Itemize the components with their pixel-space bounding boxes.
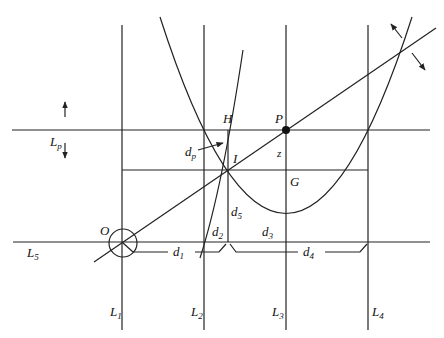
label-P: P — [274, 111, 283, 126]
label-O: O — [100, 223, 110, 238]
label-d4: d4 — [303, 244, 315, 261]
d4-bracket — [230, 244, 367, 252]
label-H: H — [222, 111, 233, 126]
label-L4: L4 — [371, 304, 384, 321]
label-L5: L5 — [26, 245, 39, 262]
label-L1: L1 — [109, 304, 122, 321]
label-dp: dp — [185, 144, 197, 161]
label-G: G — [290, 174, 300, 189]
point-P-dot — [282, 126, 290, 134]
origin-spoke — [123, 243, 133, 252]
label-L2: L2 — [190, 304, 203, 321]
label-d3: d3 — [262, 224, 274, 241]
label-d2: d2 — [212, 224, 224, 241]
label-L3: L3 — [271, 304, 284, 321]
arrow-downright-icon — [412, 53, 425, 70]
label-d5: d5 — [231, 204, 243, 221]
label-d1: d1 — [173, 244, 184, 261]
label-z: z — [276, 147, 282, 159]
geometric-diagram: L1 L2 L3 L4 Lp L5 O P H I G z dp d1 d2 d… — [0, 0, 444, 338]
label-I: I — [232, 151, 238, 166]
label-Lp: Lp — [49, 134, 62, 151]
arrow-upleft-icon — [391, 24, 402, 38]
